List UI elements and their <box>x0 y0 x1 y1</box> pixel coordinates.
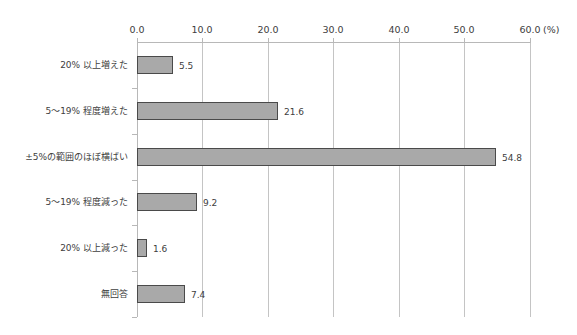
x-axis-tick-label: 0.0 <box>117 24 157 36</box>
x-axis-tick-label: 30.0 <box>313 24 353 36</box>
y-axis-tick <box>132 271 137 272</box>
value-label: 21.6 <box>284 106 304 118</box>
category-label: 5～19% 程度減った <box>45 196 128 208</box>
x-axis-tick-label: 10.0 <box>182 24 222 36</box>
bar <box>137 102 278 120</box>
y-axis-tick <box>132 134 137 135</box>
gridline <box>530 42 531 317</box>
value-label: 54.8 <box>502 152 522 164</box>
category-label: 5～19% 程度増えた <box>45 105 128 117</box>
x-axis-tick-label: 20.0 <box>248 24 288 36</box>
y-axis-line <box>137 42 138 317</box>
gridline <box>333 42 334 317</box>
y-axis-tick <box>132 88 137 89</box>
y-axis-tick <box>132 180 137 181</box>
horizontal-bar-chart: 0.010.020.030.040.050.060.0 (%) 20% 以上増え… <box>0 0 577 335</box>
gridline <box>399 42 400 317</box>
y-axis-tick <box>132 317 137 318</box>
category-label: 20% 以上増えた <box>60 59 128 71</box>
y-axis-tick <box>132 225 137 226</box>
gridline <box>268 42 269 317</box>
bar <box>137 239 147 257</box>
x-axis-line <box>137 42 531 43</box>
value-label: 9.2 <box>203 197 217 209</box>
bar <box>137 193 197 211</box>
bar <box>137 56 173 74</box>
x-axis-tick-label: 40.0 <box>379 24 419 36</box>
category-label: ±5%の範囲のほぼ横ばい <box>25 151 128 163</box>
category-label: 無回答 <box>101 288 128 300</box>
gridline <box>202 42 203 317</box>
bar <box>137 285 185 303</box>
gridline <box>464 42 465 317</box>
category-label: 20% 以上減った <box>60 242 128 254</box>
x-axis-unit-label: (%) <box>543 24 559 36</box>
x-axis-tick-label: 50.0 <box>444 24 484 36</box>
bar <box>137 148 496 166</box>
value-label: 5.5 <box>179 60 193 72</box>
value-label: 1.6 <box>153 243 167 255</box>
value-label: 7.4 <box>191 289 205 301</box>
